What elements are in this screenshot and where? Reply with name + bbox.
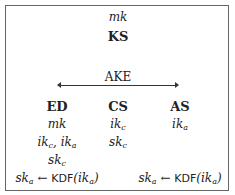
as-label: AS xyxy=(170,100,189,114)
cs-item-skc: skc xyxy=(109,135,127,153)
ed-label: ED xyxy=(46,100,67,114)
ake-label: AKE xyxy=(105,70,131,84)
ks-label: KS xyxy=(108,30,129,44)
as-item-ika: ika xyxy=(172,117,188,135)
ed-item-mk: mk xyxy=(48,117,67,131)
ed-item-kdf: ska ← KDF(ika) xyxy=(15,171,98,189)
ake-double-arrow xyxy=(61,85,175,86)
cs-label: CS xyxy=(108,100,128,114)
ed-item-skc: skc xyxy=(48,153,66,171)
ks-key: mk xyxy=(109,10,128,24)
ed-item-ik: ikc, ika xyxy=(37,135,76,153)
as-item-kdf: ska ← KDF(ika) xyxy=(138,171,221,189)
cs-item-ikc: ikc xyxy=(110,117,126,135)
